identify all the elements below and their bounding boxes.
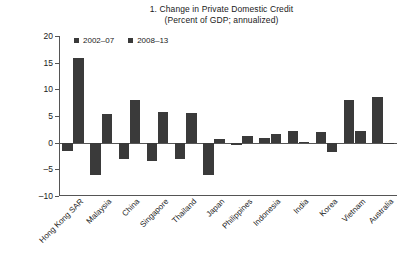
bar <box>372 97 383 143</box>
y-tick-label: 20 <box>44 31 53 41</box>
bar <box>158 112 169 143</box>
y-tick <box>55 143 59 144</box>
bar <box>242 136 253 142</box>
bar <box>355 131 366 143</box>
bar <box>130 100 141 143</box>
y-axis-line <box>59 36 60 196</box>
bar <box>316 132 327 143</box>
bar <box>214 139 225 143</box>
bar <box>299 142 310 143</box>
y-tick-label: 15 <box>44 58 53 68</box>
bar <box>271 134 282 143</box>
y-tick-label: –5 <box>44 164 53 174</box>
y-tick <box>55 116 59 117</box>
chart-title: 1. Change in Private Domestic Credit <box>0 4 419 15</box>
y-tick-label: 5 <box>48 111 53 121</box>
y-tick-label: 10 <box>44 84 53 94</box>
y-tick-label: 0 <box>48 138 53 148</box>
bar <box>102 114 113 142</box>
chart-subtitle: (Percent of GDP; annualized) <box>0 15 419 26</box>
bar <box>175 143 186 159</box>
y-tick <box>55 169 59 170</box>
bar <box>344 100 355 143</box>
bar <box>90 143 101 175</box>
zero-baseline <box>59 143 397 144</box>
bar <box>203 143 214 175</box>
bar <box>73 58 84 142</box>
y-tick <box>55 89 59 90</box>
bar <box>231 143 242 146</box>
bar <box>259 138 270 143</box>
y-tick <box>55 63 59 64</box>
y-tick-label: –10 <box>39 191 53 201</box>
bar <box>147 143 158 162</box>
bar <box>62 143 73 152</box>
bar <box>288 131 299 142</box>
chart-title-block: 1. Change in Private Domestic Credit (Pe… <box>0 4 419 26</box>
y-tick <box>55 36 59 37</box>
category-labels: Hong Kong SARMalaysiaChinaSingaporeThail… <box>59 197 419 275</box>
bar <box>327 143 338 153</box>
bar <box>186 113 197 142</box>
bar <box>383 143 394 145</box>
chart-figure: 1. Change in Private Domestic Credit (Pe… <box>0 0 419 275</box>
